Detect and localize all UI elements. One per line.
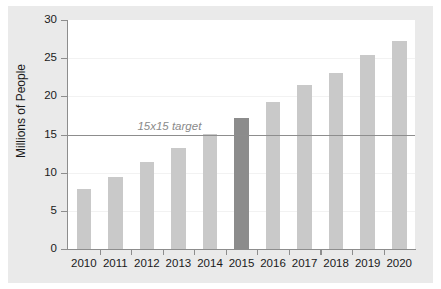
target-line-label: 15x15 target [137,120,201,132]
y-tick [61,135,67,136]
bar-2019 [360,55,375,249]
target-line [68,135,415,136]
x-tick [289,250,290,255]
x-tick [194,250,195,255]
plot-area: 15x15 target [68,20,415,249]
x-tick [131,250,132,255]
y-tick [61,58,67,59]
x-tick [320,250,321,255]
y-tick [61,96,67,97]
bar-2013 [171,148,186,249]
x-tick-label-2020: 2020 [377,258,421,270]
y-tick [61,249,67,250]
y-tick-label: 0 [33,243,57,255]
y-axis-title: Millions of People [14,46,28,176]
bar-2012 [140,162,155,249]
x-axis-line [67,249,416,250]
x-tick [100,250,101,255]
bar-2018 [329,73,344,249]
bar-2015 [234,118,249,249]
y-tick [61,20,67,21]
x-tick [257,250,258,255]
bar-2011 [108,177,123,250]
bar-2014 [203,134,218,249]
bar-2020 [392,41,407,249]
x-tick [226,250,227,255]
y-tick-label: 5 [33,205,57,217]
x-tick [163,250,164,255]
y-tick [61,173,67,174]
x-tick [352,250,353,255]
y-tick-label: 15 [33,129,57,141]
bar-2010 [77,189,92,249]
y-axis-line [67,20,68,250]
bar-2017 [297,85,312,249]
bar-2016 [266,102,281,249]
x-tick [384,250,385,255]
y-tick-label: 30 [33,14,57,26]
chart-figure: 15x15 target 051015202530 20102011201220… [0,0,441,289]
y-tick-label: 25 [33,52,57,64]
y-tick-label: 10 [33,167,57,179]
y-tick [61,211,67,212]
y-tick-label: 20 [33,90,57,102]
